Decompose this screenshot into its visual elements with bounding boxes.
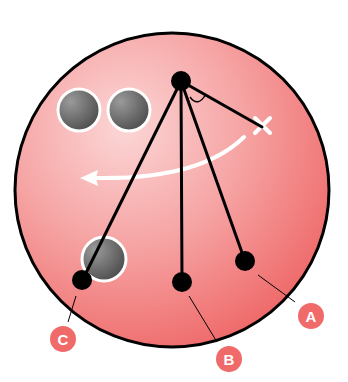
pivot-point [171, 71, 191, 91]
finger-hole-left [58, 89, 100, 131]
svg-text:A: A [306, 308, 317, 325]
svg-text:C: C [58, 331, 69, 348]
svg-text:B: B [224, 351, 235, 368]
bowling-ball-diagram: A B C [0, 0, 348, 382]
label-b: B [216, 346, 242, 372]
point-b [172, 272, 192, 292]
point-a [235, 251, 255, 271]
finger-hole-right [108, 89, 150, 131]
label-c: C [50, 326, 76, 352]
label-a: A [298, 303, 324, 329]
point-c [72, 270, 92, 290]
